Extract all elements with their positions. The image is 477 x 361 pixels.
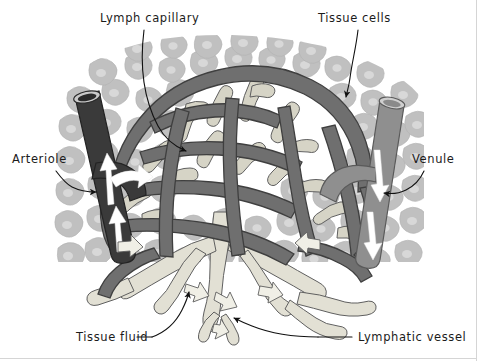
lymph-capillary-diagram: Lymph capillary Tissue cells Arteriole V…	[0, 0, 477, 361]
page-edge-lines	[0, 0, 477, 361]
